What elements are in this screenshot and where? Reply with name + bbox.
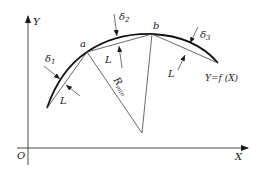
- x-axis-label: X: [234, 151, 243, 162]
- chord-length-label-3: L: [167, 68, 175, 79]
- chord-length-label-1: L: [59, 95, 67, 106]
- radius-min-label: Rmin: [110, 74, 131, 97]
- chord-length-label-2: L: [104, 54, 112, 65]
- deviation-marker-2: [114, 14, 122, 68]
- delta-1-label: δ1: [45, 53, 56, 66]
- chord-approximation-diagram: Y X O a b δ1 δ2 δ3 L L L Rmin Y=f (X): [0, 0, 260, 174]
- origin-label: O: [17, 150, 25, 161]
- curve-equation-label: Y=f (X): [205, 73, 239, 83]
- y-axis-label: Y: [33, 16, 41, 27]
- deviation-marker-3: [178, 27, 198, 70]
- point-b-label: b: [153, 20, 159, 31]
- deviation-marker-1: [44, 66, 80, 96]
- point-a-label: a: [80, 38, 86, 49]
- delta-2-label: δ2: [119, 11, 130, 24]
- delta-3-label: δ3: [200, 29, 211, 42]
- curve: [47, 34, 218, 108]
- chords: [47, 34, 218, 108]
